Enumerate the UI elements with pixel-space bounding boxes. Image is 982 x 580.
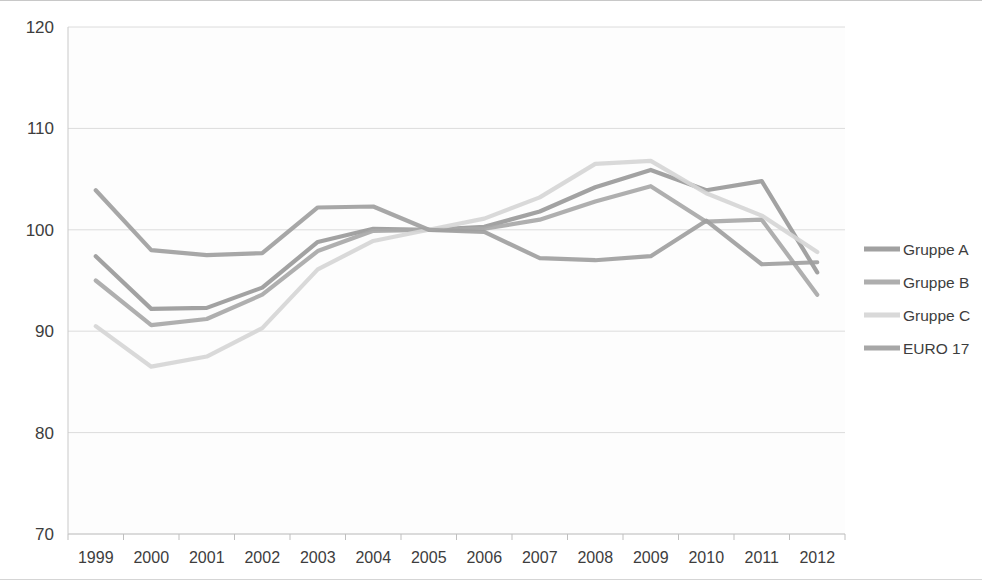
line-chart-figure: 120110100908070 199920002001200220032004… [0,0,982,580]
y-tick-label-110: 110 [27,119,54,138]
x-tick-label-1999: 1999 [78,549,114,566]
legend-label-euro-17: EURO 17 [903,340,969,357]
plot-background [68,27,845,534]
legend-label-gruppe-b: Gruppe B [903,274,969,291]
y-tick-label-70: 70 [35,525,54,544]
x-tick-label-2002: 2002 [244,549,280,566]
x-tick-label-2003: 2003 [300,549,336,566]
y-tick-label-120: 120 [26,18,54,37]
x-tick-label-2012: 2012 [799,549,835,566]
x-tick-label-2009: 2009 [633,549,669,566]
plot-area-background [68,27,845,534]
chart-canvas: 120110100908070 199920002001200220032004… [0,1,982,580]
x-tick-label-2006: 2006 [466,549,502,566]
legend-label-gruppe-c: Gruppe C [903,307,970,324]
y-tick-label-80: 80 [35,424,54,443]
x-axis-tick-labels: 1999200020012002200320042005200620072008… [78,549,835,566]
y-tick-label-100: 100 [26,221,54,240]
x-tick-label-2000: 2000 [133,549,169,566]
legend-label-gruppe-a: Gruppe A [903,241,969,258]
x-tick-label-2010: 2010 [688,549,724,566]
x-tick-label-2008: 2008 [577,549,613,566]
x-tick-label-2011: 2011 [745,549,780,566]
x-tick-label-2004: 2004 [355,549,391,566]
x-tick-label-2007: 2007 [522,549,558,566]
chart-legend: Gruppe AGruppe BGruppe CEURO 17 [864,241,970,357]
y-axis-tick-labels: 120110100908070 [26,18,54,544]
x-tick-label-2005: 2005 [411,549,447,566]
x-tick-label-2001: 2001 [189,549,225,566]
y-tick-label-90: 90 [35,322,54,341]
